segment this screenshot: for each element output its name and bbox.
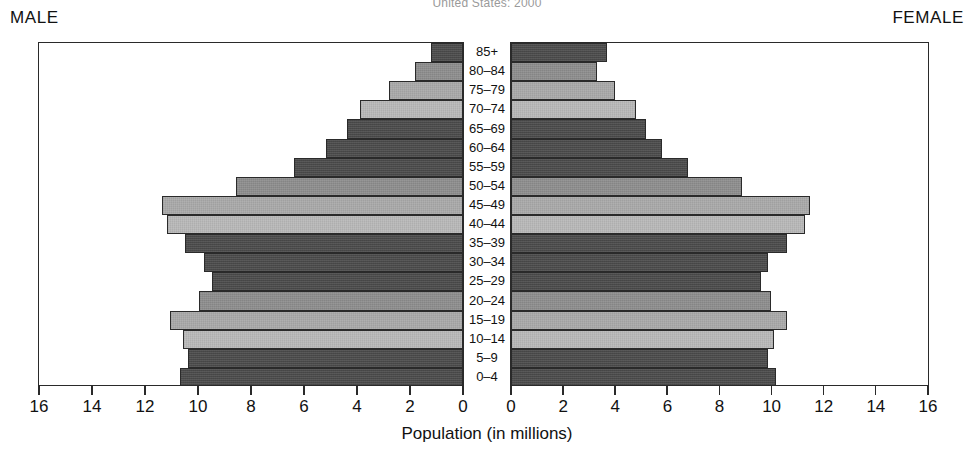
axis-tick-label: 2 [558, 397, 567, 417]
age-group-label: 35–39 [464, 236, 510, 249]
axis-tick [562, 386, 564, 395]
male-bar-80-84 [415, 62, 463, 81]
male-bar-0-4 [180, 368, 463, 386]
axis-tick-label: 2 [405, 397, 414, 417]
axis-tick-label: 10 [762, 397, 781, 417]
female-bar-80-84 [511, 62, 597, 81]
axis-tick [91, 386, 93, 395]
axis-tick [409, 386, 411, 395]
age-group-label: 70–74 [464, 102, 510, 115]
table-row [39, 349, 463, 368]
age-group-label: 60–64 [464, 141, 510, 154]
axis-tick-label: 12 [814, 397, 833, 417]
female-bar-45-49 [511, 196, 810, 215]
female-bar-65-69 [511, 119, 646, 138]
table-row [39, 253, 463, 272]
axis-tick [356, 386, 358, 395]
axis-tick-label: 4 [352, 397, 361, 417]
male-side-caption: MALE [10, 8, 59, 28]
female-bar-70-74 [511, 100, 636, 119]
age-group-label: 50–54 [464, 179, 510, 192]
table-row [39, 215, 463, 234]
table-row [39, 81, 463, 100]
female-bar-5-9 [511, 349, 768, 368]
female-bar-55-59 [511, 158, 688, 177]
axis-tick [144, 386, 146, 395]
table-row [39, 368, 463, 386]
axis-tick-label: 6 [663, 397, 672, 417]
axis-tick [38, 386, 40, 395]
axis-tick [303, 386, 305, 395]
age-group-label: 40–44 [464, 217, 510, 230]
male-bar-15-19 [170, 311, 463, 330]
age-group-label: 80–84 [464, 64, 510, 77]
male-bar-45-49 [162, 196, 463, 215]
age-group-label: 55–59 [464, 160, 510, 173]
male-x-axis: 1614121086420 [38, 386, 464, 416]
age-group-label: 15–19 [464, 313, 510, 326]
axis-tick [462, 386, 464, 395]
female-bar-40-44 [511, 215, 805, 234]
female-bar-10-14 [511, 330, 774, 349]
age-group-label: 85+ [464, 45, 510, 58]
axis-tick-label: 0 [506, 397, 515, 417]
female-bar-75-79 [511, 81, 615, 100]
male-bar-10-14 [183, 330, 463, 349]
age-group-label: 45–49 [464, 198, 510, 211]
male-bar-40-44 [167, 215, 463, 234]
axis-tick-label: 16 [30, 397, 49, 417]
female-bar-20-24 [511, 291, 771, 310]
age-group-label: 25–29 [464, 274, 510, 287]
male-bar-20-24 [199, 291, 463, 310]
female-side-caption: FEMALE [892, 8, 964, 28]
axis-tick-label: 14 [83, 397, 102, 417]
female-bar-85+ [511, 43, 607, 62]
axis-tick-label: 8 [246, 397, 255, 417]
table-row [511, 311, 928, 330]
age-group-label: 0–4 [464, 370, 510, 383]
female-bar-50-54 [511, 177, 742, 196]
female-bar-15-19 [511, 311, 787, 330]
male-bar-50-54 [236, 177, 463, 196]
axis-tick-label: 8 [715, 397, 724, 417]
table-row [39, 272, 463, 291]
female-x-axis: 0246810121416 [510, 386, 929, 416]
male-bar-60-64 [326, 139, 463, 158]
table-row [511, 349, 928, 368]
table-row [511, 177, 928, 196]
axis-tick [614, 386, 616, 395]
table-row [511, 43, 928, 62]
male-bar-30-34 [204, 253, 463, 272]
female-bar-60-64 [511, 139, 662, 158]
x-axis-title: Population (in millions) [0, 424, 974, 444]
table-row [511, 234, 928, 253]
male-bar-85+ [431, 43, 463, 62]
page-title: United States: 2000 [0, 0, 974, 10]
axis-tick [197, 386, 199, 395]
table-row [39, 100, 463, 119]
axis-tick-label: 10 [189, 397, 208, 417]
axis-tick [823, 386, 825, 395]
male-bar-75-79 [389, 81, 463, 100]
axis-tick [875, 386, 877, 395]
table-row [39, 177, 463, 196]
table-row [39, 234, 463, 253]
axis-tick [250, 386, 252, 395]
table-row [511, 100, 928, 119]
table-row [511, 253, 928, 272]
age-group-label: 30–34 [464, 255, 510, 268]
table-row [511, 62, 928, 81]
female-bar-25-29 [511, 272, 761, 291]
table-row [39, 291, 463, 310]
axis-tick-label: 12 [136, 397, 155, 417]
table-row [511, 119, 928, 138]
table-row [39, 119, 463, 138]
table-row [511, 291, 928, 310]
age-group-label: 10–14 [464, 332, 510, 345]
table-row [511, 81, 928, 100]
table-row [39, 139, 463, 158]
axis-tick-label: 4 [611, 397, 620, 417]
table-row [39, 158, 463, 177]
axis-tick [927, 386, 929, 395]
male-bar-5-9 [188, 349, 463, 368]
